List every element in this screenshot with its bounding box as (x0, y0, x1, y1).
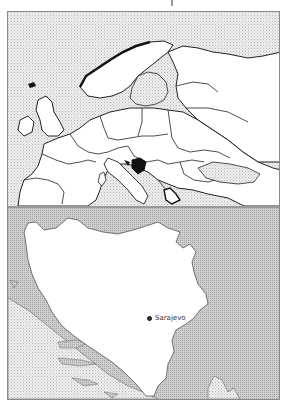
scan-artifact (171, 0, 173, 6)
capital-marker (147, 316, 152, 321)
europe-map-svg (8, 12, 279, 206)
bosnia-map-svg (8, 208, 279, 399)
map-frame: Sarajevo (7, 11, 280, 400)
europe-overview-map (8, 12, 279, 206)
city-label-sarajevo: Sarajevo (155, 314, 186, 322)
bosnia-detail-map: Sarajevo (8, 208, 279, 399)
